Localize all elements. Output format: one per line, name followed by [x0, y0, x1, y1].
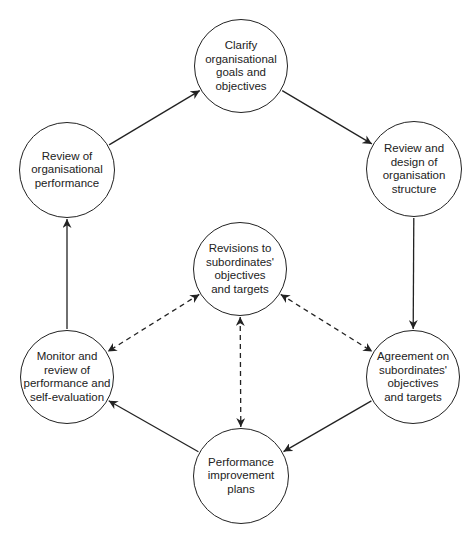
dashed-arrow-revisions-to-agreement	[281, 294, 373, 351]
node-label: Review and design of organisation struct…	[383, 142, 446, 196]
cycle-diagram: Clarify organisational goals and objecti…	[0, 0, 476, 538]
node-label: Performance improvement plans	[208, 456, 274, 497]
node-label: Review of organisational performance	[31, 150, 103, 191]
node-label: Agreement on subordinates' objectives an…	[377, 350, 449, 404]
node-revisions-objectives: Revisions to subordinates' objectives an…	[193, 222, 287, 316]
node-review-org-performance: Review of organisational performance	[19, 122, 115, 218]
node-monitor-review: Monitor and review of performance and se…	[20, 330, 114, 424]
node-clarify-goals: Clarify organisational goals and objecti…	[194, 19, 288, 113]
node-performance-improvement-plans: Performance improvement plans	[193, 428, 289, 524]
node-label: Monitor and review of performance and se…	[24, 350, 111, 404]
dashed-arrow-revisions-to-monitor	[108, 294, 200, 351]
node-label: Clarify organisational goals and objecti…	[205, 39, 277, 93]
node-label: Revisions to subordinates' objectives an…	[206, 242, 274, 296]
arrow-review-design-to-agreement	[413, 218, 414, 329]
node-review-design-structure: Review and design of organisation struct…	[366, 121, 462, 217]
arrow-review-org-performance-to-clarify	[109, 91, 200, 145]
arrow-performance-improvement-to-monitor	[109, 401, 199, 452]
arrow-clarify-to-review-design	[282, 91, 372, 144]
node-agreement-objectives: Agreement on subordinates' objectives an…	[366, 330, 460, 424]
arrow-agreement-to-performance-improvement	[284, 401, 372, 452]
dashed-arrow-revisions-to-performance-improvement	[240, 317, 241, 427]
